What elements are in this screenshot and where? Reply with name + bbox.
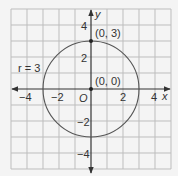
y-axis-label: y xyxy=(94,8,102,20)
point-center xyxy=(89,87,93,91)
point-center-label: (0, 0) xyxy=(95,75,121,87)
y-tick-neg4: −4 xyxy=(77,148,90,160)
x-axis-label: x xyxy=(161,90,168,102)
y-tick-4: 4 xyxy=(81,20,87,32)
coordinate-graph: y x O −4 −2 2 4 4 2 −2 −4 (0, 3) (0, 0) … xyxy=(0,0,178,176)
y-tick-neg2: −2 xyxy=(77,116,90,128)
radius-label: r = 3 xyxy=(18,62,40,74)
origin-label: O xyxy=(79,92,88,104)
y-tick-2: 2 xyxy=(81,52,87,64)
point-top-label: (0, 3) xyxy=(95,27,121,39)
x-tick-neg2: −2 xyxy=(51,91,64,103)
x-tick-2: 2 xyxy=(120,91,126,103)
x-tick-neg4: −4 xyxy=(19,91,32,103)
x-tick-4: 4 xyxy=(151,91,157,103)
point-top xyxy=(89,39,93,43)
